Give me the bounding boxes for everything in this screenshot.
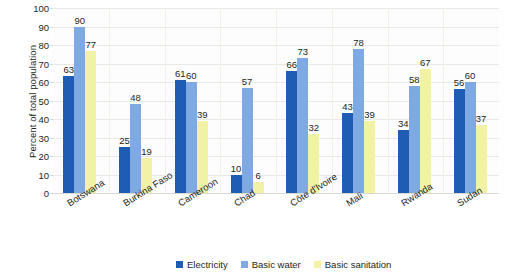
- category-separator: [220, 8, 221, 193]
- y-tick-label: 10: [38, 169, 49, 180]
- bar-value-label: 90: [75, 15, 86, 26]
- legend-label: Basic water: [252, 259, 301, 270]
- gridline: [53, 193, 499, 194]
- bar-value-label: 10: [231, 163, 242, 174]
- bar[interactable]: [454, 89, 465, 193]
- y-tick-label: 90: [38, 21, 49, 32]
- chart-legend: ElectricityBasic waterBasic sanitation: [176, 259, 404, 270]
- bar-value-label: 73: [298, 46, 309, 57]
- bar[interactable]: [409, 86, 420, 193]
- y-axis-title: Percent of total population: [27, 7, 38, 197]
- y-tick-mark: [50, 138, 53, 139]
- bar[interactable]: [175, 80, 186, 193]
- category-separator: [109, 8, 110, 193]
- y-tick-label: 50: [38, 95, 49, 106]
- legend-label: Electricity: [187, 259, 228, 270]
- bar[interactable]: [130, 104, 141, 193]
- bar-value-label: 67: [420, 57, 431, 68]
- bar[interactable]: [119, 147, 130, 193]
- bar[interactable]: [420, 69, 431, 193]
- bar[interactable]: [85, 51, 96, 193]
- bar-value-label: 66: [287, 59, 298, 70]
- legend-item[interactable]: Basic sanitation: [314, 259, 392, 270]
- bar[interactable]: [476, 125, 487, 193]
- category-separator: [332, 8, 333, 193]
- bar-value-label: 58: [409, 74, 420, 85]
- bar-value-label: 37: [476, 113, 487, 124]
- legend-swatch-icon: [314, 261, 321, 268]
- y-tick-mark: [50, 156, 53, 157]
- bar[interactable]: [297, 58, 308, 193]
- y-tick-mark: [50, 45, 53, 46]
- y-tick-label: 80: [38, 40, 49, 51]
- legend-label: Basic sanitation: [325, 259, 392, 270]
- legend-swatch-icon: [241, 261, 248, 268]
- bar-value-label: 6: [255, 170, 260, 181]
- bar-value-label: 43: [342, 101, 353, 112]
- bar[interactable]: [286, 71, 297, 193]
- bar[interactable]: [353, 49, 364, 193]
- y-tick-label: 70: [38, 58, 49, 69]
- y-tick-label: 100: [33, 3, 49, 14]
- category-separator: [388, 8, 389, 193]
- y-tick-mark: [50, 101, 53, 102]
- y-tick-label: 0: [44, 188, 49, 199]
- y-tick-mark: [50, 8, 53, 9]
- y-tick-mark: [50, 64, 53, 65]
- bar-value-label: 48: [130, 92, 141, 103]
- y-tick-mark: [50, 82, 53, 83]
- y-tick-label: 30: [38, 132, 49, 143]
- y-tick-mark: [50, 119, 53, 120]
- category-separator: [276, 8, 277, 193]
- bar-value-label: 19: [141, 146, 152, 157]
- legend-swatch-icon: [176, 261, 183, 268]
- bar[interactable]: [74, 27, 85, 194]
- y-tick-label: 40: [38, 114, 49, 125]
- legend-item[interactable]: Basic water: [241, 259, 301, 270]
- bar-value-label: 57: [242, 76, 253, 87]
- bar-value-label: 34: [398, 118, 409, 129]
- bar[interactable]: [364, 121, 375, 193]
- bar[interactable]: [465, 82, 476, 193]
- y-tick-mark: [50, 27, 53, 28]
- legend-item[interactable]: Electricity: [176, 259, 228, 270]
- bar[interactable]: [186, 82, 197, 193]
- bar-value-label: 77: [86, 39, 97, 50]
- bar-value-label: 25: [119, 135, 130, 146]
- bar-value-label: 56: [454, 77, 465, 88]
- bar[interactable]: [242, 88, 253, 193]
- bar[interactable]: [231, 175, 242, 194]
- y-tick-label: 20: [38, 151, 49, 162]
- bar-value-label: 60: [186, 70, 197, 81]
- bar[interactable]: [63, 76, 74, 193]
- bar-chart: Percent of total population 010203040506…: [0, 0, 505, 278]
- bar-value-label: 39: [197, 109, 208, 120]
- bar[interactable]: [398, 130, 409, 193]
- bar[interactable]: [342, 113, 353, 193]
- category-separator: [165, 8, 166, 193]
- bar-value-label: 61: [175, 68, 186, 79]
- bar-value-label: 63: [64, 64, 75, 75]
- bar-value-label: 39: [364, 109, 375, 120]
- y-tick-label: 60: [38, 77, 49, 88]
- bar-value-label: 32: [309, 122, 320, 133]
- category-separator: [443, 8, 444, 193]
- plot-area: 0102030405060708090100 63907725481961603…: [53, 8, 499, 193]
- y-tick-mark: [50, 175, 53, 176]
- bar-value-label: 78: [353, 37, 364, 48]
- y-tick-mark: [50, 193, 53, 194]
- bar-value-label: 60: [465, 70, 476, 81]
